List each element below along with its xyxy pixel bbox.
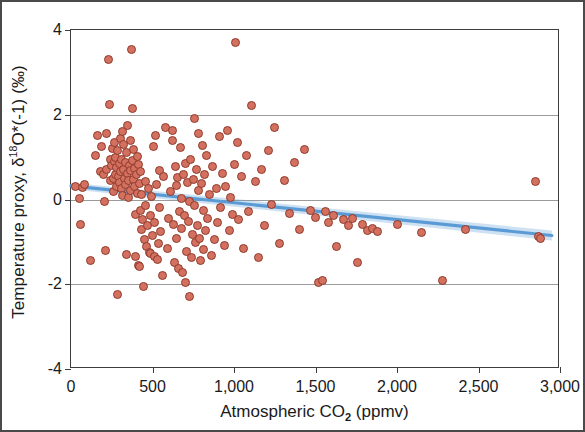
scatter-point xyxy=(101,246,110,255)
scatter-point xyxy=(159,172,168,181)
scatter-point xyxy=(531,177,540,186)
scatter-point xyxy=(318,276,327,285)
scatter-point xyxy=(353,258,362,267)
scatter-point xyxy=(127,45,136,54)
scatter-point xyxy=(97,142,106,151)
x-tick-label: 0 xyxy=(67,378,76,396)
scatter-point xyxy=(200,170,209,179)
scatter-point xyxy=(290,158,299,167)
scatter-point xyxy=(234,215,243,224)
x-tick-label: 2,000 xyxy=(377,378,417,396)
scatter-point xyxy=(126,136,135,145)
y-axis-label-post: O*(-1) (‰) xyxy=(9,65,28,145)
scatter-point xyxy=(113,290,122,299)
scatter-point xyxy=(536,234,545,243)
scatter-point xyxy=(184,217,193,226)
scatter-point xyxy=(196,256,205,265)
scatter-point xyxy=(251,177,260,186)
scatter-point xyxy=(86,256,95,265)
scatter-point xyxy=(223,126,232,135)
scatter-point xyxy=(300,145,309,154)
scatter-point xyxy=(329,211,338,220)
scatter-point xyxy=(270,123,279,132)
scatter-point xyxy=(260,221,269,230)
scatter-point xyxy=(172,181,181,190)
scatter-point xyxy=(197,179,206,188)
scatter-point xyxy=(417,228,426,237)
y-tick-label: 4 xyxy=(53,21,62,39)
scatter-point xyxy=(332,242,341,251)
scatter-point xyxy=(212,184,221,193)
scatter-point xyxy=(150,218,159,227)
scatter-point xyxy=(208,162,217,171)
scatter-point xyxy=(156,227,165,236)
scatter-point xyxy=(153,255,162,264)
scatter-point xyxy=(311,213,320,222)
y-axis-label-pre: Temperature proxy, δ xyxy=(9,157,28,318)
scatter-point xyxy=(172,234,181,243)
scatter-point xyxy=(100,197,109,206)
scatter-point xyxy=(104,55,113,64)
scatter-point xyxy=(257,165,266,174)
x-tick-label: 1,500 xyxy=(295,378,335,396)
scatter-point xyxy=(158,271,167,280)
scatter-point xyxy=(218,169,227,178)
x-axis-label: Atmospheric CO2 (ppmv) xyxy=(70,402,559,422)
scatter-point xyxy=(80,180,89,189)
scatter-point xyxy=(230,160,239,169)
scatter-point xyxy=(186,155,195,164)
scatter-point xyxy=(181,278,190,287)
scatter-point xyxy=(280,176,289,185)
y-axis-label-superscript: 18 xyxy=(7,146,19,158)
x-tick-label: 500 xyxy=(139,378,166,396)
scatter-point xyxy=(91,151,100,160)
scatter-point xyxy=(136,167,145,176)
scatter-point xyxy=(225,226,234,235)
scatter-point xyxy=(177,224,186,233)
scatter-point xyxy=(247,101,256,110)
scatter-point xyxy=(210,235,219,244)
scatter-point xyxy=(93,131,102,140)
scatter-point xyxy=(122,250,131,259)
scatter-point xyxy=(198,141,207,150)
y-tick-label: 0 xyxy=(53,191,62,209)
scatter-point xyxy=(221,182,230,191)
scatter-point xyxy=(168,136,177,145)
scatter-point xyxy=(194,129,203,138)
scatter-points xyxy=(71,30,558,367)
scatter-point xyxy=(155,203,164,212)
scatter-point xyxy=(139,282,148,291)
scatter-point xyxy=(185,292,194,301)
scatter-point xyxy=(461,225,470,234)
chart-figure: Temperature proxy, δ18O*(-1) (‰) 420-2-4… xyxy=(0,0,585,432)
scatter-point xyxy=(231,38,240,47)
scatter-point xyxy=(254,253,263,262)
scatter-point xyxy=(135,262,144,271)
scatter-point xyxy=(195,234,204,243)
x-tick-label: 2,500 xyxy=(458,378,498,396)
scatter-point xyxy=(201,226,210,235)
scatter-point xyxy=(131,252,140,261)
scatter-point xyxy=(176,143,185,152)
scatter-point xyxy=(226,193,235,202)
scatter-point xyxy=(190,114,199,123)
scatter-point xyxy=(213,218,222,227)
y-tick-label: -2 xyxy=(48,275,62,293)
scatter-point xyxy=(244,207,253,216)
y-tick-mark xyxy=(65,369,71,370)
scatter-point xyxy=(242,151,251,160)
scatter-point xyxy=(149,142,158,151)
scatter-point xyxy=(237,172,246,181)
scatter-point xyxy=(285,209,294,218)
scatter-point xyxy=(373,227,382,236)
y-tick-label: -4 xyxy=(48,360,62,378)
scatter-point xyxy=(105,100,114,109)
x-axis-label-post: (ppmv) xyxy=(351,402,409,421)
scatter-point xyxy=(178,268,187,277)
scatter-point xyxy=(128,104,137,113)
scatter-point xyxy=(393,220,402,229)
x-axis-label-pre: Atmospheric CO xyxy=(220,402,345,421)
scatter-point xyxy=(75,194,84,203)
scatter-point xyxy=(233,138,242,147)
scatter-point xyxy=(215,132,224,141)
